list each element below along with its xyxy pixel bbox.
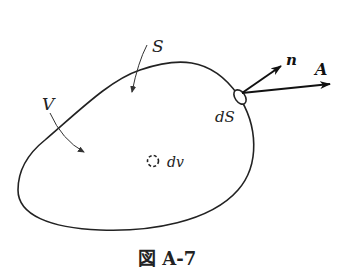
label-A: A — [313, 60, 327, 79]
diagram-canvas: S V dv dS n A 図 A-7 — [0, 0, 358, 277]
label-n: n — [286, 51, 297, 69]
label-S: S — [152, 36, 164, 56]
label-dv: dv — [167, 154, 184, 170]
arrow-V-pointer-icon — [50, 113, 84, 152]
volume-element-icon — [148, 156, 159, 167]
label-V: V — [42, 94, 56, 114]
label-dS: dS — [215, 108, 235, 126]
surface-boundary — [18, 62, 254, 230]
field-vector-arrow-icon — [242, 84, 330, 93]
figure-caption: 図 A-7 — [138, 248, 196, 269]
